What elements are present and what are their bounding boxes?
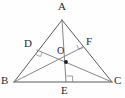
segment-side-AC [62, 20, 112, 82]
point-label-E: E [61, 85, 68, 96]
segment-altitude-CD [37, 50, 112, 82]
geometry-figure: A B C D E F O [0, 0, 125, 98]
point-label-A: A [58, 1, 66, 12]
point-label-D: D [24, 38, 32, 49]
point-label-F: F [86, 36, 92, 47]
point-label-O: O [57, 45, 64, 56]
point-label-B: B [1, 75, 8, 86]
orthocenter-dot [64, 60, 68, 64]
segment-side-AB [14, 20, 62, 82]
right-angle-mark-E [67, 76, 73, 82]
point-label-C: C [114, 75, 121, 86]
